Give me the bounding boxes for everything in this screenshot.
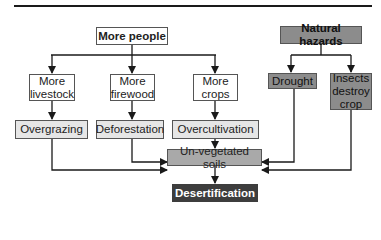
node-more-firewood: More firewood bbox=[110, 74, 155, 101]
node-insects-destroy-crop: Insects destroy crop bbox=[330, 73, 372, 110]
node-desertification: Desertification bbox=[172, 184, 258, 202]
edge-insects-soils bbox=[262, 110, 351, 170]
node-natural-hazards: Natural hazards bbox=[280, 26, 362, 44]
node-more-people: More people bbox=[96, 27, 168, 45]
node-drought: Drought bbox=[268, 73, 317, 89]
edge-drought-soils bbox=[262, 89, 294, 162]
node-unvegetated-soils: Un-vegetated soils bbox=[167, 149, 262, 166]
node-overgrazing: Overgrazing bbox=[15, 120, 88, 139]
node-more-livestock: More livestock bbox=[29, 74, 75, 101]
edge-overgrazing-soils bbox=[52, 139, 167, 170]
edge-deforestation-soils bbox=[132, 139, 167, 162]
node-deforestation: Deforestation bbox=[96, 120, 164, 139]
node-overcultivation: Overcultivation bbox=[172, 120, 259, 139]
node-more-crops: More crops bbox=[193, 74, 238, 101]
